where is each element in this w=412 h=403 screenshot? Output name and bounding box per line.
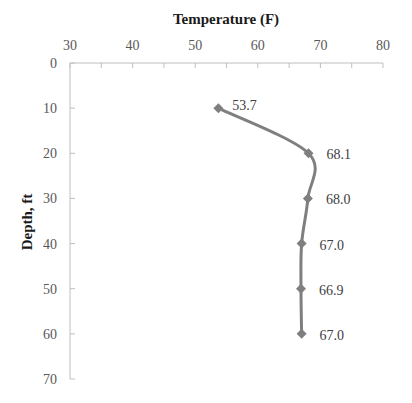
temperature-depth-chart: 304050607080010203040506070 53.768.168.0… [0, 0, 412, 403]
data-point-marker [296, 284, 306, 294]
x-tick-label: 50 [188, 38, 202, 53]
data-label: 68.0 [326, 192, 351, 207]
x-axis-title: Temperature (F) [173, 11, 279, 28]
y-tick-label: 20 [43, 146, 57, 161]
data-label: 53.7 [232, 98, 257, 113]
data-point-marker [213, 103, 223, 113]
data-label: 67.0 [320, 328, 345, 343]
y-tick-label: 0 [50, 56, 57, 71]
x-tick-label: 30 [63, 38, 77, 53]
series-line [218, 108, 315, 334]
data-label: 68.1 [327, 147, 352, 162]
plot-area: 53.768.168.067.066.967.0 [213, 98, 351, 343]
y-tick-label: 60 [43, 327, 57, 342]
y-axis-title: Depth, ft [19, 194, 35, 251]
y-tick-label: 30 [43, 191, 57, 206]
x-tick-label: 70 [313, 38, 327, 53]
data-label: 67.0 [320, 238, 345, 253]
y-tick-label: 70 [43, 372, 57, 387]
data-point-marker [297, 239, 307, 249]
y-tick-label: 40 [43, 237, 57, 252]
x-tick-label: 60 [251, 38, 265, 53]
y-tick-label: 10 [43, 101, 57, 116]
data-point-marker [297, 329, 307, 339]
x-tick-label: 40 [126, 38, 140, 53]
x-tick-label: 80 [376, 38, 390, 53]
data-point-marker [303, 193, 313, 203]
y-tick-label: 50 [43, 282, 57, 297]
data-label: 66.9 [319, 283, 344, 298]
